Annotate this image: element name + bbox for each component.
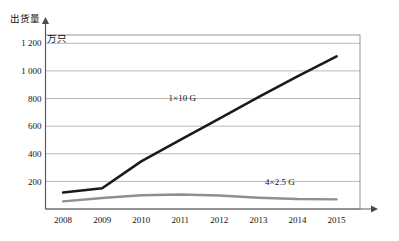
- series-line: [63, 195, 336, 202]
- y-tick-label: 1 200: [21, 38, 42, 48]
- y-tick-labels-group: 2004006008001 0001 200: [21, 38, 42, 186]
- series-annotations-group: 1×10 G4×2.5 G: [169, 93, 296, 187]
- x-tick-label: 2011: [171, 215, 189, 225]
- y-tick-label: 1 000: [21, 66, 42, 76]
- series-group: [63, 56, 336, 201]
- line-chart: 出货量 万只 2004006008001 0001 200 2008200920…: [0, 0, 399, 241]
- y-axis-title: 出货量: [10, 13, 40, 24]
- x-tick-label: 2009: [93, 215, 112, 225]
- series-line: [63, 56, 336, 192]
- x-tick-label: 2012: [210, 215, 228, 225]
- series-annotation-label: 4×2.5 G: [265, 177, 295, 187]
- plot-area-border: [46, 35, 361, 209]
- x-tick-label: 2014: [288, 215, 307, 225]
- y-axis-arrowhead: [42, 17, 49, 24]
- x-tick-label: 2013: [249, 215, 268, 225]
- chart-container: 出货量 万只 2004006008001 0001 200 2008200920…: [0, 0, 399, 241]
- y-axis-unit-label: 万只: [47, 33, 67, 44]
- y-tick-label: 800: [28, 94, 42, 104]
- gridlines-group: [46, 43, 361, 181]
- x-tick-labels-group: 20082009201020112012201320142015: [54, 215, 346, 225]
- x-axis-arrowhead: [371, 205, 378, 212]
- x-tick-label: 2008: [54, 215, 73, 225]
- x-tick-label: 2010: [132, 215, 151, 225]
- y-tick-label: 600: [28, 121, 42, 131]
- y-tick-label: 200: [28, 177, 42, 187]
- x-tick-label: 2015: [328, 215, 347, 225]
- y-tick-label: 400: [28, 149, 42, 159]
- series-annotation-label: 1×10 G: [169, 93, 197, 103]
